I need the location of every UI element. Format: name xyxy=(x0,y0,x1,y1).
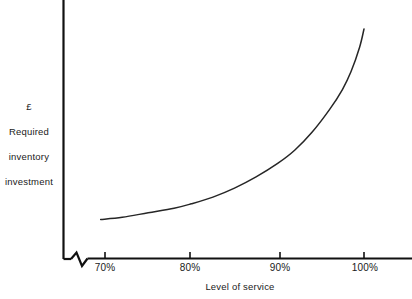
x-tick-label-100: 100% xyxy=(352,262,378,273)
x-axis-break-zigzag-icon xyxy=(71,253,88,267)
y-axis-title: £ Required inventory investment xyxy=(0,88,58,188)
chart-figure: £ Required inventory investment 70% 80% … xyxy=(0,0,412,299)
y-axis-title-line-3: investment xyxy=(5,176,53,187)
y-axis-title-line-2: inventory xyxy=(9,151,49,162)
y-axis-title-currency: £ xyxy=(0,101,58,114)
inventory-investment-curve xyxy=(101,29,364,220)
x-tick-label-70: 70% xyxy=(95,262,116,273)
x-axis-title: Level of service xyxy=(170,281,310,292)
y-axis-title-line-1: Required xyxy=(9,126,49,137)
x-tick-label-80: 80% xyxy=(180,262,201,273)
x-tick-label-90: 90% xyxy=(270,262,291,273)
chart-plot-area xyxy=(0,0,412,299)
